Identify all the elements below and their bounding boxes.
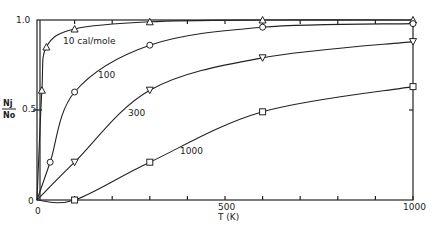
y-axis-title-numerator: Nj (3, 99, 13, 108)
curve-label-300: 300 (128, 108, 145, 118)
data-point-circle-icon (410, 21, 416, 27)
data-point-circle-icon (147, 42, 153, 48)
data-point-triangle-down-icon (146, 87, 153, 94)
curve-100 (37, 24, 413, 200)
data-point-triangle-up-icon (43, 44, 50, 51)
data-point-square-icon (72, 197, 78, 203)
data-point-square-icon (147, 159, 153, 165)
x-tick-label-1000: 1000 (403, 202, 426, 212)
y-tick-label-1: 1.0 (16, 15, 31, 25)
chart-figure: 1.0 0.5 0 0 500 1000 T (K) Nj No 10 cal/… (0, 0, 433, 230)
curve-label-1000: 1000 (180, 146, 203, 156)
y-axis-title-denominator: No (3, 111, 16, 120)
data-point-circle-icon (72, 89, 78, 95)
data-point-circle-icon (260, 24, 266, 30)
curve-label-100: 100 (98, 70, 115, 80)
data-point-square-icon (260, 109, 266, 115)
data-point-square-icon (410, 84, 416, 90)
curve-1000 (37, 87, 413, 203)
curve-label-10: 10 cal/mole (63, 36, 116, 46)
y-tick-label-0: 0 (28, 196, 34, 206)
data-point-circle-icon (47, 159, 53, 165)
curve-300 (37, 42, 413, 200)
chart-curves (37, 20, 413, 203)
x-tick-label-0: 0 (35, 206, 41, 216)
x-axis-title: T (K) (217, 212, 239, 222)
x-tick-label-500: 500 (218, 202, 235, 212)
y-tick-label-0.5: 0.5 (22, 104, 36, 114)
